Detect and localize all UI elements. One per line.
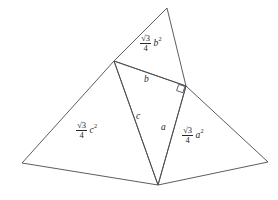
area-term-c: c2 (90, 126, 98, 136)
side-label-b: b (144, 75, 149, 85)
sqrt3-numerator-a: √3 (182, 126, 193, 135)
area-label-c: √3 4 c2 (76, 121, 97, 140)
fraction-sqrt3-over-4-b: √3 4 (140, 34, 151, 53)
area-term-b: b2 (154, 39, 162, 49)
sqrt3-numerator-b: √3 (140, 34, 151, 43)
area-label-b: √3 4 b2 (140, 34, 162, 53)
area-term-exponent-b: 2 (159, 35, 162, 42)
side-label-a: a (161, 123, 166, 133)
side-label-c: c (136, 112, 140, 122)
right-equilateral-triangle (158, 86, 268, 185)
area-term-letter-a: a (196, 130, 201, 140)
central-right-triangle (114, 61, 186, 185)
sqrt3-numerator-c: √3 (76, 121, 87, 130)
area-term-a: a2 (196, 131, 204, 141)
geometry-figure: b c a √3 4 b2 √3 4 c2 √3 4 a2 (0, 0, 278, 200)
denominator-a: 4 (184, 136, 190, 145)
denominator-c: 4 (78, 131, 84, 140)
denominator-b: 4 (142, 44, 148, 53)
area-term-exponent-a: 2 (201, 127, 204, 134)
area-term-letter-b: b (154, 38, 159, 48)
fraction-sqrt3-over-4-a: √3 4 (182, 126, 193, 145)
figure-canvas (0, 0, 278, 200)
area-term-exponent-c: 2 (94, 122, 97, 129)
area-label-a: √3 4 a2 (182, 126, 204, 145)
fraction-sqrt3-over-4-c: √3 4 (76, 121, 87, 140)
